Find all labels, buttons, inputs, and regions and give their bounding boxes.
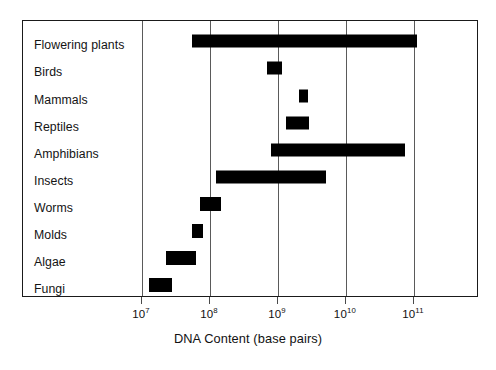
range-bar-worms [200, 197, 221, 211]
range-bar-flowering-plants [192, 35, 417, 48]
range-bar-molds [192, 224, 203, 238]
range-bar-insects [216, 171, 326, 184]
range-bar-mammals [299, 90, 308, 103]
range-bar-amphibians [271, 144, 405, 157]
gridline-1e8 [210, 21, 211, 296]
range-bar-algae [166, 251, 196, 265]
category-label-worms: Worms [34, 201, 73, 215]
category-label-amphibians: Amphibians [34, 147, 99, 161]
tickmark-1e8 [209, 297, 210, 304]
tick-mantissa-1e11: 10 [402, 308, 415, 320]
tickmark-1e9 [277, 297, 278, 304]
range-bar-reptiles [286, 117, 309, 130]
tickmark-1e7 [141, 297, 142, 304]
tick-exponent-1e9: 9 [281, 306, 286, 315]
tick-mantissa-1e10: 10 [334, 308, 347, 320]
gridline-1e11 [414, 21, 415, 296]
range-bar-fungi [149, 278, 172, 292]
tick-exponent-1e11: 11 [415, 306, 424, 315]
category-label-molds: Molds [34, 228, 67, 242]
category-label-fungi: Fungi [34, 282, 65, 296]
category-label-reptiles: Reptiles [34, 120, 79, 134]
tick-label-1e8: 108 [200, 308, 218, 320]
gridline-1e7 [142, 21, 143, 296]
category-label-mammals: Mammals [34, 93, 88, 107]
tick-mantissa-1e9: 10 [268, 308, 281, 320]
tick-exponent-1e10: 10 [347, 306, 356, 315]
plot-area: Flowering plants Birds Mammals Reptiles … [22, 20, 478, 297]
tick-mantissa-1e8: 10 [200, 308, 213, 320]
category-label-flowering-plants: Flowering plants [34, 38, 124, 52]
category-label-birds: Birds [34, 65, 62, 79]
x-axis-title: DNA Content (base pairs) [0, 331, 496, 346]
dna-content-range-chart: Flowering plants Birds Mammals Reptiles … [0, 0, 496, 370]
tickmark-1e10 [345, 297, 346, 304]
tick-exponent-1e8: 8 [213, 306, 218, 315]
tick-label-1e10: 1010 [334, 308, 356, 320]
gridline-1e10 [346, 21, 347, 296]
tickmark-1e11 [413, 297, 414, 304]
category-label-insects: Insects [34, 174, 73, 188]
tick-exponent-1e7: 7 [145, 306, 150, 315]
tick-mantissa-1e7: 10 [132, 308, 145, 320]
category-label-algae: Algae [34, 255, 66, 269]
range-bar-birds [267, 62, 282, 75]
tick-label-1e7: 107 [132, 308, 150, 320]
tick-label-1e11: 1011 [402, 308, 424, 320]
tick-label-1e9: 109 [268, 308, 286, 320]
